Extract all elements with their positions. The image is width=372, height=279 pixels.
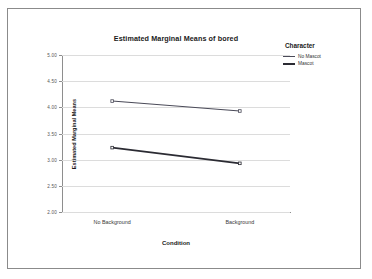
data-point-marker — [239, 162, 242, 165]
legend-title: Character — [283, 42, 363, 49]
legend-item: Mascot — [283, 61, 363, 66]
legend-label: No Mascot — [298, 54, 321, 59]
legend: Character No MascotMascot — [283, 42, 363, 68]
legend-item: No Mascot — [283, 54, 363, 59]
x-tick-label: No Background — [94, 219, 131, 225]
series-lines — [62, 55, 290, 212]
data-point-marker — [111, 100, 114, 103]
x-tick-label: Background — [225, 219, 254, 225]
y-tick-label: 2.00 — [47, 210, 57, 215]
legend-color-swatch — [283, 56, 295, 57]
y-axis-title: Estimated Marginal Means — [71, 98, 77, 168]
chart-title: Estimated Marginal Means of bored — [60, 34, 292, 43]
estimated-marginal-means-chart: Estimated Marginal Means of bored 2.002.… — [0, 0, 372, 279]
y-tick-label: 3.00 — [47, 157, 57, 162]
series-line — [112, 148, 240, 164]
legend-entries: No MascotMascot — [283, 54, 363, 66]
y-tick-label: 4.50 — [47, 79, 57, 84]
data-point-marker — [239, 110, 242, 113]
y-tick-label: 3.50 — [47, 131, 57, 136]
legend-color-swatch — [283, 63, 295, 65]
y-tick-label: 4.00 — [47, 105, 57, 110]
data-point-marker — [111, 146, 114, 149]
y-tick-label: 2.50 — [47, 183, 57, 188]
legend-label: Mascot — [298, 61, 313, 66]
y-tick-label: 5.00 — [47, 53, 57, 58]
series-line — [112, 101, 240, 111]
gridline — [62, 212, 290, 213]
x-axis-title: Condition — [62, 240, 290, 246]
y-tick-mark — [59, 212, 62, 213]
plot-area: 2.002.503.003.504.004.505.00 Estimated M… — [62, 55, 290, 212]
